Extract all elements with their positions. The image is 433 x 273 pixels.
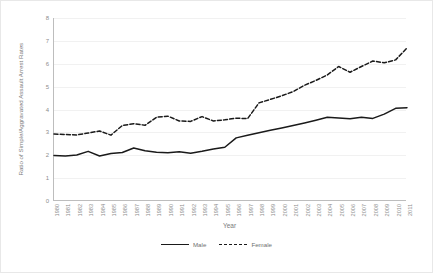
x-axis-tick-label: 2011 (408, 204, 414, 216)
x-axis-tick-label: 2008 (374, 204, 380, 216)
y-axis-tick-label: 8 (46, 15, 49, 21)
series-line-male (54, 108, 407, 156)
y-axis-tick-label: 7 (46, 38, 49, 44)
x-axis-tick-label: 2001 (294, 204, 300, 216)
x-axis-tick-label: 1983 (89, 204, 95, 216)
x-axis-title: Year (53, 222, 406, 229)
x-axis-tick-label: 2003 (317, 204, 323, 216)
x-axis-tick-label: 1989 (157, 204, 163, 216)
x-axis-tick-label: 1980 (55, 204, 61, 216)
plot-area: 012345678 (53, 18, 406, 201)
legend-swatch-male (161, 244, 189, 245)
x-axis-tick-label: 1995 (226, 204, 232, 216)
x-axis-tick-label: 1981 (66, 204, 72, 216)
x-axis-tick-label: 1986 (123, 204, 129, 216)
series-layer (54, 18, 407, 201)
x-axis-tick-label: 2000 (283, 204, 289, 216)
x-axis-tick-label: 1991 (180, 204, 186, 216)
legend-label: Female (251, 241, 272, 248)
legend-label: Male (193, 241, 206, 248)
legend-swatch-female (219, 244, 247, 245)
x-axis-tick-label: 1984 (101, 204, 107, 216)
y-axis-tick-label: 5 (46, 84, 49, 90)
x-axis-tick-label: 2005 (340, 204, 346, 216)
x-axis-tick-label: 1999 (271, 204, 277, 216)
y-axis-title-label: Ratio of Simple/Aggravated Assault Arres… (17, 43, 25, 176)
y-axis-tick-label: 2 (46, 152, 49, 158)
legend-item-male[interactable]: Male (161, 241, 206, 248)
x-axis-tick-label: 2002 (306, 204, 312, 216)
x-axis-tick-label: 1982 (78, 204, 84, 216)
x-axis-tick-label: 2004 (328, 204, 334, 216)
x-axis-tick-label: 1992 (192, 204, 198, 216)
chart-figure: Ratio of Simple/Aggravated Assault Arres… (0, 0, 433, 273)
x-axis-tick-label: 1987 (135, 204, 141, 216)
x-axis-tick-label: 1994 (214, 204, 220, 216)
y-axis-tick-label: 6 (46, 61, 49, 67)
x-axis-title-label: Year (223, 222, 236, 229)
y-axis-tick-label: 1 (46, 175, 49, 181)
x-axis-tick-label: 1998 (260, 204, 266, 216)
x-axis-tick-label: 1988 (146, 204, 152, 216)
x-axis-tick-label: 1985 (112, 204, 118, 216)
y-axis-tick-label: 4 (46, 107, 49, 113)
chart-legend: MaleFemale (1, 241, 432, 248)
y-axis-tick-label: 0 (46, 198, 49, 204)
x-axis-tick-label: 2009 (385, 204, 391, 216)
y-axis-tick-label: 3 (46, 129, 49, 135)
legend-item-female[interactable]: Female (219, 241, 272, 248)
x-axis-tick-label: 2007 (362, 204, 368, 216)
y-axis-title: Ratio of Simple/Aggravated Assault Arres… (15, 18, 27, 201)
x-axis-tick-label: 1990 (169, 204, 175, 216)
x-axis-tick-label: 2006 (351, 204, 357, 216)
x-axis-tick-label: 1997 (249, 204, 255, 216)
x-axis-tick-label: 2010 (397, 204, 403, 216)
x-axis-tick-label: 1996 (237, 204, 243, 216)
series-line-female (54, 48, 407, 135)
x-axis-tick-label: 1993 (203, 204, 209, 216)
